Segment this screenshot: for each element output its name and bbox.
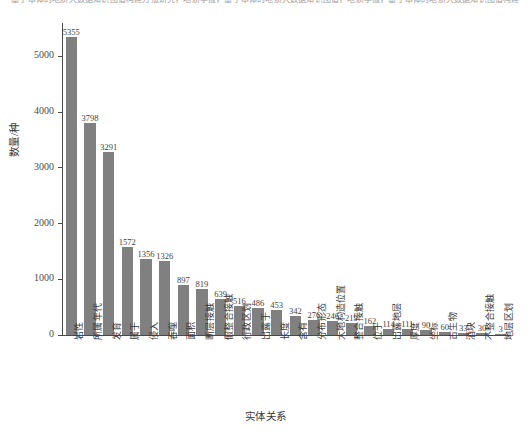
y-axis-tick-label: 4000 <box>34 105 54 117</box>
x-axis-category-label: 大地构造位置 <box>337 284 347 340</box>
bar-value-label: 3798 <box>81 113 98 123</box>
bar-value-label: 453 <box>270 300 283 310</box>
x-axis-category-label: 酒块 <box>467 321 477 340</box>
x-axis-category-label: 面积 <box>187 321 197 340</box>
x-axis-category-label: 出露于 <box>262 312 272 340</box>
x-axis-category-label: 长度 <box>281 321 291 340</box>
bar-value-label: 897 <box>177 275 190 285</box>
bar-value-label: 3291 <box>100 142 117 152</box>
y-axis-title: 数量/种 <box>6 122 21 157</box>
x-axis-category-label: 厚度 <box>411 321 421 340</box>
y-axis-tick-label: 0 <box>49 328 54 340</box>
clipped-header-text: 基于本体的地质大数据知识图谱构建方法研究，地质学报，基于本体的地质大数据知识图谱… <box>0 0 531 9</box>
x-axis-category-label: 侵入 <box>150 321 160 340</box>
bar-value-label: 819 <box>196 279 209 289</box>
bar-value-label: 1326 <box>156 251 173 261</box>
clipped-header-label: 基于本体的地质大数据知识图谱构建方法研究，地质学报，基于本体的地质大数据知识图谱… <box>11 0 519 4</box>
plot-area: 5355379832911572135613268978196395164864… <box>62 23 510 335</box>
bar[interactable]: 3291 <box>103 152 115 335</box>
x-axis-category-label: 位于 <box>374 321 384 340</box>
x-axis-category-label: 不整合接触 <box>486 294 496 341</box>
x-axis-category-label: 古生物 <box>449 312 459 340</box>
x-axis-category-label: 坐标 <box>430 321 440 340</box>
y-axis-tick-label: 5000 <box>34 49 54 61</box>
x-axis-category-label: 吞噬 <box>169 321 179 340</box>
bar-value-label: 486 <box>252 298 265 308</box>
x-axis-category-label: 出露地层 <box>393 303 403 340</box>
bar-value-label: 5355 <box>63 27 80 37</box>
x-axis-category-label: 属于 <box>131 321 141 340</box>
bar-chart: 数量/种 010002000300040005000 5355379832911… <box>0 9 531 434</box>
bar[interactable]: 5355 <box>66 37 78 335</box>
bar-value-label: 3 <box>499 324 503 334</box>
x-axis-category-label: 岩性 <box>75 321 85 340</box>
x-axis-category-label: 所属年代 <box>94 303 104 340</box>
x-axis-category-label: 整合接触 <box>355 303 365 340</box>
x-axis-category-label: 地层区划 <box>505 303 515 340</box>
x-axis-category-label: 含有 <box>299 321 309 340</box>
y-axis-tick-label: 3000 <box>34 161 54 173</box>
bar-value-label: 1356 <box>137 249 154 259</box>
x-axis-category-label: 断层接触 <box>206 303 216 340</box>
bar-value-label: 1572 <box>119 237 136 247</box>
y-axis-tick-label: 2000 <box>34 217 54 229</box>
x-axis-title: 实体关系 <box>0 408 531 423</box>
y-axis-tick-label: 1000 <box>34 272 54 284</box>
x-axis-category-label: 发育 <box>113 321 123 340</box>
x-axis-category-label: 假整合接触 <box>225 294 235 341</box>
bar-value-label: 342 <box>289 306 302 316</box>
x-axis-category-label: 行政区划 <box>243 303 253 340</box>
x-axis-category-label: 分布形态 <box>318 303 328 340</box>
